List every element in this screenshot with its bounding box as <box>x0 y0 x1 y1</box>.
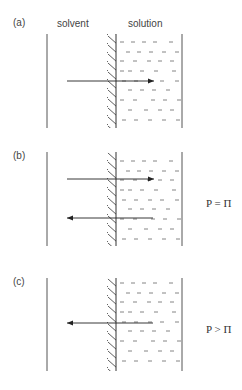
panel-a <box>47 34 182 128</box>
osmosis-diagram <box>0 0 242 390</box>
panel-c <box>47 278 182 371</box>
panel-b <box>47 152 182 246</box>
